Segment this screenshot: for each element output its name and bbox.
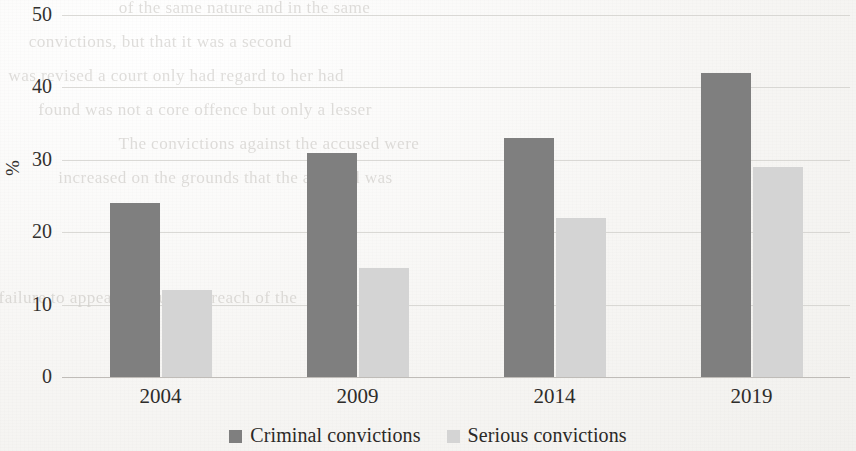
legend-label: Serious convictions bbox=[468, 424, 627, 447]
bar-serious-convictions bbox=[359, 268, 409, 377]
legend-item: Criminal convictions bbox=[229, 424, 420, 447]
legend-swatch-icon bbox=[229, 430, 242, 443]
bar-criminal-convictions bbox=[110, 203, 160, 377]
y-axis-label: % bbox=[2, 160, 24, 176]
x-axis-tick-label: 2019 bbox=[672, 384, 832, 409]
bar-group bbox=[62, 15, 259, 377]
legend-label: Criminal convictions bbox=[250, 424, 420, 447]
y-axis-tick-label: 10 bbox=[0, 294, 52, 314]
y-axis-tick-label: 20 bbox=[0, 221, 52, 241]
chart-legend: Criminal convictionsSerious convictions bbox=[0, 424, 856, 447]
x-axis-tick-label: 2009 bbox=[278, 384, 438, 409]
bar-group bbox=[259, 15, 456, 377]
y-axis-tick-label: 0 bbox=[0, 366, 52, 386]
x-axis-tick-label: 2004 bbox=[81, 384, 241, 409]
plot-area bbox=[62, 15, 850, 377]
bar-criminal-convictions bbox=[504, 138, 554, 377]
bar-group bbox=[653, 15, 850, 377]
bar-serious-convictions bbox=[556, 218, 606, 377]
legend-item: Serious convictions bbox=[447, 424, 627, 447]
bar-group bbox=[456, 15, 653, 377]
y-axis-tick-label: 40 bbox=[0, 76, 52, 96]
bar-criminal-convictions bbox=[701, 73, 751, 377]
x-axis-tick-label: 2014 bbox=[475, 384, 635, 409]
legend-swatch-icon bbox=[447, 430, 460, 443]
bar-chart: 01020304050 % 2004200920142019 Criminal … bbox=[0, 0, 856, 451]
bar-serious-convictions bbox=[753, 167, 803, 377]
y-axis-tick-label: 50 bbox=[0, 4, 52, 24]
gridline bbox=[62, 377, 850, 378]
bar-serious-convictions bbox=[162, 290, 212, 377]
bar-criminal-convictions bbox=[307, 153, 357, 377]
